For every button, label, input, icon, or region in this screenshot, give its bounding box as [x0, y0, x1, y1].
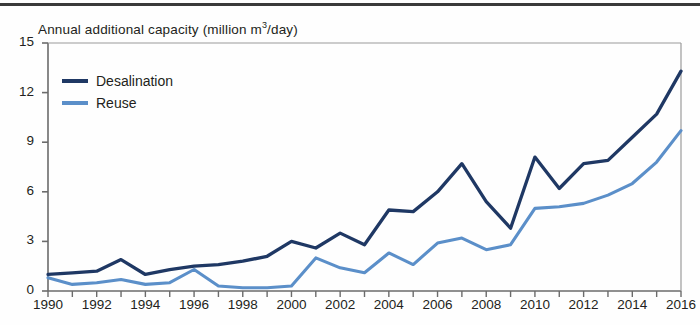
y-tick-label: 15	[8, 34, 34, 49]
x-tick-label: 1992	[73, 297, 121, 312]
y-tick-label: 9	[8, 133, 34, 148]
plot-area	[0, 0, 700, 325]
x-tick-label: 1996	[170, 297, 218, 312]
chart-figure: Annual additional capacity (million m3/d…	[0, 0, 700, 325]
x-tick-label: 2014	[608, 297, 656, 312]
x-tick-label: 1998	[219, 297, 267, 312]
x-tick-label: 2000	[267, 297, 315, 312]
x-tick-label: 2008	[462, 297, 510, 312]
x-tick-label: 1994	[121, 297, 169, 312]
series-line-desalination	[48, 71, 681, 274]
x-tick-label: 2010	[511, 297, 559, 312]
x-tick-label: 2012	[560, 297, 608, 312]
x-tick-label: 2004	[365, 297, 413, 312]
axes	[48, 43, 681, 291]
y-tick-marks	[42, 43, 48, 291]
y-tick-label: 12	[8, 84, 34, 99]
series-line-reuse	[48, 131, 681, 288]
x-tick-label: 2006	[414, 297, 462, 312]
y-tick-label: 3	[8, 232, 34, 247]
y-tick-label: 6	[8, 183, 34, 198]
x-tick-label: 1990	[24, 297, 72, 312]
x-tick-label: 2016	[657, 297, 700, 312]
x-tick-label: 2002	[316, 297, 364, 312]
y-tick-label: 0	[8, 282, 34, 297]
